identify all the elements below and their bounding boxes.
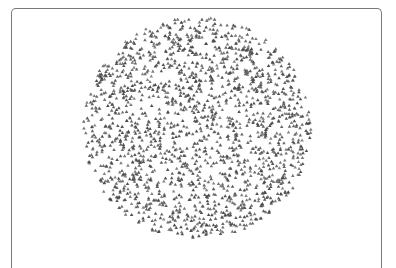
data-point <box>90 113 94 116</box>
data-point <box>89 92 93 95</box>
data-point <box>209 75 213 78</box>
data-point <box>227 119 231 122</box>
data-point <box>98 69 102 72</box>
data-point <box>129 195 133 198</box>
data-point <box>214 217 218 220</box>
data-point <box>137 164 141 167</box>
data-point <box>292 124 296 127</box>
data-point <box>176 215 180 218</box>
data-point <box>204 71 208 74</box>
data-point <box>164 204 168 207</box>
data-point <box>147 196 151 199</box>
data-point <box>177 193 181 196</box>
data-point <box>250 86 254 89</box>
data-point <box>237 104 241 107</box>
data-point <box>230 160 234 163</box>
data-point <box>220 35 224 38</box>
data-point <box>98 137 102 140</box>
data-point <box>262 120 266 123</box>
data-point <box>103 172 107 175</box>
data-point <box>290 121 294 124</box>
data-point <box>245 26 249 29</box>
data-point <box>256 131 260 134</box>
data-point <box>192 218 196 221</box>
data-point <box>263 180 267 183</box>
data-point <box>198 82 202 85</box>
data-point <box>130 79 134 82</box>
data-point <box>206 199 210 202</box>
data-point <box>143 64 147 67</box>
data-point <box>153 168 157 171</box>
data-point <box>221 108 225 111</box>
data-point <box>252 102 256 105</box>
data-point <box>221 225 225 228</box>
data-point <box>195 33 199 36</box>
data-point <box>220 51 224 54</box>
data-point <box>193 214 197 217</box>
data-point <box>186 42 190 45</box>
data-point <box>258 69 262 72</box>
data-point <box>228 173 232 176</box>
data-point <box>173 59 177 62</box>
data-point <box>191 132 195 135</box>
data-point <box>204 79 208 82</box>
data-point <box>300 105 304 108</box>
data-point <box>301 151 305 154</box>
data-point <box>212 161 216 164</box>
data-point <box>255 192 259 195</box>
data-point <box>121 111 125 114</box>
data-point <box>159 117 163 120</box>
data-point <box>90 139 94 142</box>
data-point <box>205 124 209 127</box>
data-point <box>238 83 242 86</box>
data-point <box>179 107 183 110</box>
data-point <box>130 154 134 157</box>
data-point <box>299 134 303 137</box>
data-point <box>115 199 119 202</box>
data-point <box>150 219 154 222</box>
data-point <box>201 56 205 59</box>
data-point <box>245 124 249 127</box>
data-point <box>175 226 179 229</box>
data-point <box>85 104 89 107</box>
data-point <box>226 55 230 58</box>
data-point <box>176 112 180 115</box>
data-point <box>130 213 134 216</box>
data-point <box>296 101 300 104</box>
data-point <box>296 95 300 98</box>
data-point <box>221 85 225 88</box>
data-point <box>108 166 112 169</box>
data-point <box>226 134 230 137</box>
data-point <box>173 21 177 24</box>
data-point <box>125 119 129 122</box>
data-point <box>160 212 164 215</box>
data-point <box>119 143 123 146</box>
data-point <box>174 41 178 44</box>
data-point <box>251 36 255 39</box>
data-point <box>292 68 296 71</box>
data-point <box>227 79 231 82</box>
data-point <box>191 97 195 100</box>
data-point <box>128 116 132 119</box>
data-point <box>172 37 176 40</box>
data-point <box>240 193 244 196</box>
data-point <box>233 93 237 96</box>
data-point <box>146 145 150 148</box>
data-point <box>198 139 202 142</box>
data-point <box>112 192 116 195</box>
data-point <box>295 112 299 115</box>
data-point <box>243 45 247 48</box>
data-point <box>284 169 288 172</box>
data-point <box>145 173 149 176</box>
data-point <box>232 141 236 144</box>
data-point <box>242 223 246 226</box>
data-point <box>134 37 138 40</box>
data-point <box>151 55 155 58</box>
data-point <box>195 129 199 132</box>
data-point <box>181 24 185 27</box>
data-point <box>124 213 128 216</box>
data-point <box>297 160 301 163</box>
data-point <box>299 97 303 100</box>
data-point <box>190 33 194 36</box>
data-point <box>164 176 168 179</box>
